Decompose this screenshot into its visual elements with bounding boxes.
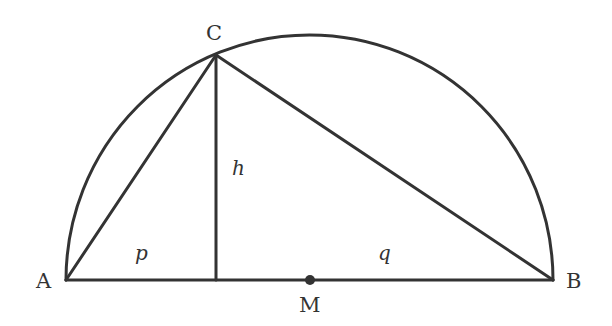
diagram-canvas: A B C M p q h: [0, 0, 612, 326]
label-a: A: [35, 269, 52, 293]
label-c: C: [206, 21, 222, 45]
label-b: B: [566, 269, 581, 293]
center-point-m: [305, 275, 315, 285]
label-m: M: [299, 293, 321, 317]
label-h: h: [232, 156, 245, 180]
label-q: q: [378, 241, 391, 265]
label-p: p: [135, 241, 148, 265]
